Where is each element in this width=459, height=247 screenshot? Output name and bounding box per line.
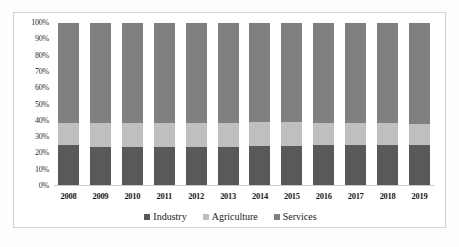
plot-area	[54, 23, 434, 186]
y-axis-tick: 90%	[35, 35, 49, 43]
bar-segment-agriculture[interactable]	[218, 123, 239, 147]
x-axis-tick: 2010	[122, 192, 143, 201]
bar-column[interactable]	[218, 23, 239, 185]
legend-label: Agriculture	[212, 212, 258, 222]
bar-segment-agriculture[interactable]	[345, 123, 366, 145]
legend-swatch-icon	[203, 214, 209, 220]
bar-segment-industry[interactable]	[90, 147, 111, 185]
bar-segment-agriculture[interactable]	[409, 124, 430, 144]
bar-segment-agriculture[interactable]	[122, 123, 143, 147]
bar-segment-agriculture[interactable]	[186, 123, 207, 147]
bar-column[interactable]	[122, 23, 143, 185]
bar-segment-agriculture[interactable]	[90, 123, 111, 148]
x-axis-tick: 2019	[409, 192, 430, 201]
x-axis-tick: 2015	[281, 192, 302, 201]
bar-segment-industry[interactable]	[313, 145, 334, 185]
x-axis-tick: 2017	[345, 192, 366, 201]
bar-segment-services[interactable]	[281, 23, 302, 122]
y-axis-tick: 20%	[35, 149, 49, 157]
chart-legend: IndustryAgricultureServices	[14, 209, 447, 225]
bar-segment-services[interactable]	[313, 23, 334, 123]
bar-segment-agriculture[interactable]	[377, 123, 398, 144]
x-axis-tick: 2013	[218, 192, 239, 201]
y-axis-tick: 80%	[35, 52, 49, 60]
bar-segment-services[interactable]	[90, 23, 111, 123]
legend-swatch-icon	[274, 214, 280, 220]
bar-segment-agriculture[interactable]	[154, 123, 175, 148]
bar-segment-industry[interactable]	[122, 147, 143, 185]
bar-column[interactable]	[409, 23, 430, 185]
x-axis: 2008200920102011201220132014201520162017…	[54, 189, 434, 203]
y-axis-tick: 10%	[35, 166, 49, 174]
bar-segment-services[interactable]	[345, 23, 366, 123]
legend-label: Industry	[153, 212, 186, 222]
legend-swatch-icon	[144, 214, 150, 220]
bar-segment-services[interactable]	[218, 23, 239, 123]
x-axis-tick: 2016	[313, 192, 334, 201]
chart-frame: 0%10%20%30%40%50%60%70%80%90%100% 200820…	[13, 12, 446, 228]
y-axis-tick: 40%	[35, 117, 49, 125]
bar-segment-agriculture[interactable]	[313, 123, 334, 146]
bar-column[interactable]	[154, 23, 175, 185]
x-axis-tick: 2009	[90, 192, 111, 201]
y-axis-tick: 70%	[35, 68, 49, 76]
bar-segment-industry[interactable]	[345, 145, 366, 186]
bar-segment-services[interactable]	[186, 23, 207, 123]
bar-segment-industry[interactable]	[58, 145, 79, 185]
bar-segment-industry[interactable]	[377, 145, 398, 186]
y-axis-tick: 100%	[31, 19, 49, 27]
y-axis-tick: 0%	[39, 182, 49, 190]
legend-item[interactable]: Agriculture	[203, 212, 258, 222]
y-axis-tick: 30%	[35, 133, 49, 141]
bar-column[interactable]	[345, 23, 366, 185]
bar-column[interactable]	[281, 23, 302, 185]
stacked-bar-chart: 0%10%20%30%40%50%60%70%80%90%100% 200820…	[0, 0, 459, 247]
bar-segment-industry[interactable]	[409, 145, 430, 186]
x-axis-tick: 2012	[186, 192, 207, 201]
x-axis-tick: 2018	[377, 192, 398, 201]
bar-column[interactable]	[90, 23, 111, 185]
x-axis-tick: 2008	[58, 192, 79, 201]
bar-segment-services[interactable]	[249, 23, 270, 122]
bar-segment-services[interactable]	[122, 23, 143, 123]
legend-item[interactable]: Services	[274, 212, 317, 222]
x-axis-tick: 2014	[249, 192, 270, 201]
bar-column[interactable]	[377, 23, 398, 185]
bar-segment-services[interactable]	[154, 23, 175, 123]
bar-segment-industry[interactable]	[249, 146, 270, 185]
bar-column[interactable]	[313, 23, 334, 185]
bar-column[interactable]	[186, 23, 207, 185]
x-axis-tick: 2011	[154, 192, 175, 201]
y-axis-tick: 50%	[35, 101, 49, 109]
bar-segment-services[interactable]	[409, 23, 430, 124]
bar-segment-industry[interactable]	[218, 147, 239, 185]
bar-segment-industry[interactable]	[186, 147, 207, 185]
bar-segment-agriculture[interactable]	[249, 122, 270, 146]
y-axis: 0%10%20%30%40%50%60%70%80%90%100%	[14, 23, 52, 186]
bar-column[interactable]	[249, 23, 270, 185]
legend-label: Services	[283, 212, 317, 222]
bar-column[interactable]	[58, 23, 79, 185]
bar-segment-services[interactable]	[58, 23, 79, 123]
y-axis-tick: 60%	[35, 84, 49, 92]
bar-segment-industry[interactable]	[281, 146, 302, 185]
bar-segment-industry[interactable]	[154, 147, 175, 185]
legend-item[interactable]: Industry	[144, 212, 186, 222]
bars-layer	[54, 23, 434, 185]
bar-segment-agriculture[interactable]	[58, 123, 79, 146]
bar-segment-services[interactable]	[377, 23, 398, 123]
bar-segment-agriculture[interactable]	[281, 122, 302, 145]
